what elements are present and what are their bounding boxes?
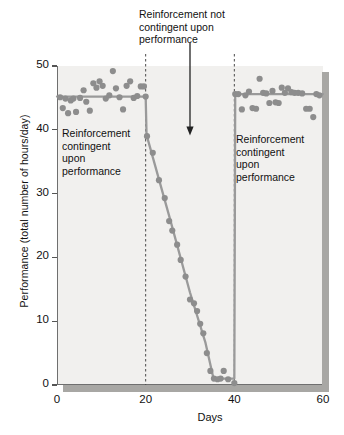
- y-tick-label-40: 40: [19, 122, 49, 134]
- plot-shadow-right: [322, 72, 329, 390]
- annotation-reinforcement-not-contingent: Reinforcement not contingent upon perfor…: [139, 8, 264, 46]
- x-tick-label-40: 40: [214, 393, 254, 405]
- y-tick-mark-20: [52, 257, 57, 258]
- y-tick-label-20: 20: [19, 249, 49, 261]
- annotation-reinforcement-contingent-right: Reinforcement contingent upon performanc…: [236, 133, 328, 183]
- x-tick-label-20: 20: [126, 393, 166, 405]
- y-tick-label-50: 50: [19, 58, 49, 70]
- y-tick-mark-0: [52, 384, 57, 385]
- y-tick-label-0: 0: [19, 377, 49, 389]
- plot-area: [57, 66, 323, 385]
- plot-shadow-bottom: [63, 385, 329, 392]
- x-tick-label-0: 0: [37, 393, 77, 405]
- y-tick-mark-50: [52, 65, 57, 66]
- y-tick-label-10: 10: [19, 313, 49, 325]
- y-tick-mark-10: [52, 321, 57, 322]
- x-axis-title: Days: [0, 411, 344, 423]
- x-tick-label-60: 60: [303, 393, 343, 405]
- chart-container: Performance (total number of hours/day) …: [0, 0, 344, 435]
- x-axis-title-text: Days: [197, 411, 222, 423]
- annotation-reinforcement-contingent-left: Reinforcement contingent upon performanc…: [62, 127, 154, 177]
- y-tick-label-30: 30: [19, 186, 49, 198]
- y-tick-mark-40: [52, 129, 57, 130]
- y-tick-mark-30: [52, 193, 57, 194]
